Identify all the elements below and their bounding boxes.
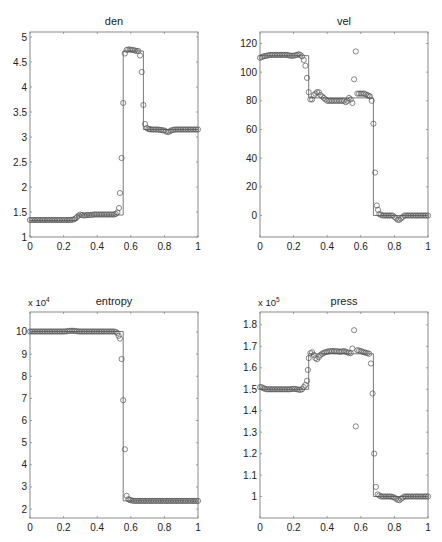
y-tick-label: 10	[16, 326, 28, 337]
y-tick-label: 100	[240, 67, 257, 78]
y-tick-label: 2	[21, 504, 27, 515]
x-tick-label: 0	[257, 241, 263, 252]
x-tick-label: 1	[425, 241, 431, 252]
y-tick-label: 5	[21, 437, 27, 448]
y-tick-label: 1.3	[243, 427, 257, 438]
panel-title: vel	[337, 15, 351, 27]
y-tick-label: 1	[21, 232, 27, 243]
axes-frame	[30, 312, 198, 518]
y-tick-label: 20	[246, 181, 258, 192]
y-tick-label: 120	[240, 38, 257, 49]
x-tick-label: 0.4	[90, 522, 104, 533]
y-tick-label: 3	[21, 481, 27, 492]
y-tick-label: 1	[251, 491, 257, 502]
y-tick-label: 4	[21, 459, 27, 470]
panel-title: entropy	[96, 295, 133, 307]
figure-canvas: den00.20.40.60.8111.522.533.544.55vel00.…	[0, 0, 442, 542]
x-tick-label: 1	[195, 241, 201, 252]
x-tick-label: 0.6	[124, 522, 138, 533]
y-tick-label: 9	[21, 349, 27, 360]
y-tick-label: 0	[251, 210, 257, 221]
axes-frame	[30, 32, 198, 237]
y-tick-label: 3	[21, 132, 27, 143]
x-tick-label: 0	[257, 522, 263, 533]
y-tick-label: 1.7	[243, 341, 257, 352]
panel-press: pressx 10500.20.40.60.8111.11.21.31.41.5…	[243, 295, 431, 533]
axes-frame	[260, 312, 428, 518]
figure: den00.20.40.60.8111.522.533.544.55vel00.…	[0, 0, 442, 542]
y-tick-label: 1.5	[13, 207, 27, 218]
x-tick-label: 0.2	[57, 522, 71, 533]
y-tick-label: 1.8	[243, 319, 257, 330]
x-tick-label: 0.4	[320, 522, 334, 533]
panel-title: den	[105, 15, 123, 27]
x-tick-label: 0.2	[57, 241, 71, 252]
x-tick-label: 0.8	[157, 522, 171, 533]
x-tick-label: 0.6	[354, 241, 368, 252]
x-tick-label: 0.6	[354, 522, 368, 533]
panel-title: press	[331, 295, 358, 307]
y-tick-label: 2	[21, 182, 27, 193]
x-tick-label: 0.4	[90, 241, 104, 252]
panel-vel: vel00.20.40.60.81020406080100120	[240, 15, 431, 252]
y-tick-label: 2.5	[13, 157, 27, 168]
y-tick-label: 3.5	[13, 107, 27, 118]
y-tick-label: 40	[246, 153, 258, 164]
y-tick-label: 1.6	[243, 362, 257, 373]
y-tick-label: 5	[21, 32, 27, 43]
x-tick-label: 0.4	[320, 241, 334, 252]
x-tick-label: 0.8	[387, 522, 401, 533]
x-tick-label: 0	[27, 522, 33, 533]
y-tick-label: 60	[246, 124, 258, 135]
y-tick-label: 4	[21, 82, 27, 93]
panel-entropy: entropyx 10400.20.40.60.812345678910	[16, 295, 201, 533]
y-tick-label: 1.1	[243, 470, 257, 481]
x-tick-label: 1	[195, 522, 201, 533]
x-tick-label: 0.2	[287, 241, 301, 252]
x-tick-label: 0.8	[157, 241, 171, 252]
x-tick-label: 0.6	[124, 241, 138, 252]
x-tick-label: 0	[27, 241, 33, 252]
y-tick-label: 80	[246, 95, 258, 106]
y-tick-label: 8	[21, 371, 27, 382]
y-tick-label: 4.5	[13, 57, 27, 68]
y-tick-label: 6	[21, 415, 27, 426]
y-tick-label: 1.2	[243, 448, 257, 459]
exponent-label: x 104	[28, 296, 50, 308]
panel-den: den00.20.40.60.8111.522.533.544.55	[13, 15, 201, 252]
x-tick-label: 0.8	[387, 241, 401, 252]
y-tick-label: 1.5	[243, 384, 257, 395]
x-tick-label: 0.2	[287, 522, 301, 533]
axes-frame	[260, 32, 428, 237]
x-tick-label: 1	[425, 522, 431, 533]
y-tick-label: 7	[21, 393, 27, 404]
y-tick-label: 1.4	[243, 405, 257, 416]
exponent-label: x 105	[258, 296, 280, 308]
